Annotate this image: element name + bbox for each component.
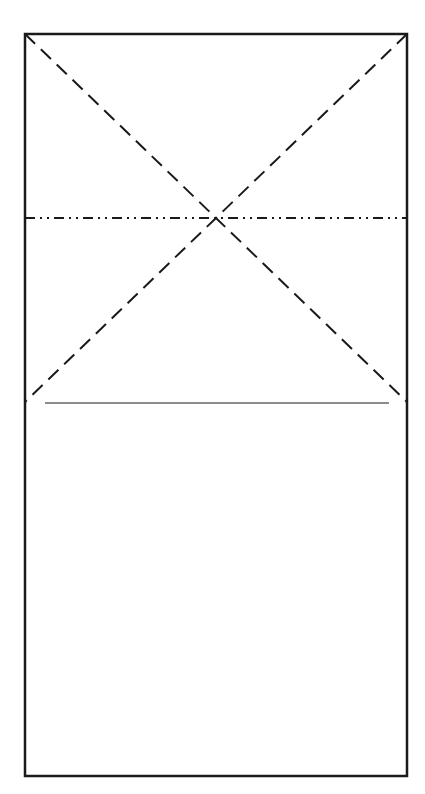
paper-outline — [25, 34, 407, 776]
fold-diagram — [0, 0, 425, 794]
